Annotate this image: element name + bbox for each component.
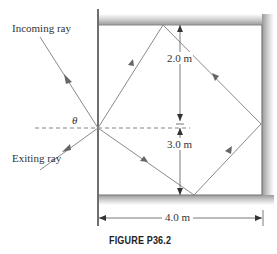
label-top-distance: 2.0 m [166, 52, 193, 64]
bottom-mirror [98, 195, 274, 205]
label-bottom-distance: 3.0 m [166, 138, 193, 150]
ray-segment-4 [98, 25, 163, 128]
figure-caption: FIGURE P36.2 [109, 234, 171, 246]
incoming-arrow-icon [64, 74, 72, 84]
ray-segment-2 [194, 124, 261, 195]
label-theta: θ [72, 114, 77, 126]
ray-segment-3 [163, 25, 261, 124]
top-mirror [98, 14, 270, 25]
label-width: 4.0 m [162, 211, 193, 223]
mirror-box-diagram [0, 0, 277, 254]
exiting-arrow-icon [62, 144, 71, 152]
label-incoming-ray: Incoming ray [12, 22, 71, 34]
right-mirror [262, 14, 274, 198]
label-exiting-ray: Exiting ray [12, 152, 61, 164]
